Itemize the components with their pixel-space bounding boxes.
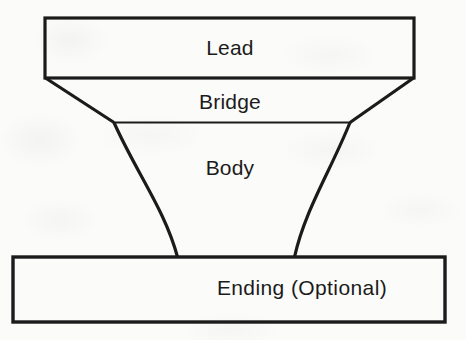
body-left-curve <box>114 123 178 258</box>
bridge-label: Bridge <box>199 90 261 113</box>
diagram-canvas: Lead Bridge Body Ending (Optional) <box>0 0 466 340</box>
lead-section: Lead <box>45 18 414 78</box>
body-section: Body <box>114 123 350 258</box>
bridge-left-diagonal <box>46 78 115 123</box>
bridge-section: Bridge <box>46 78 414 123</box>
body-label: Body <box>206 156 255 179</box>
story-structure-diagram: Lead Bridge Body Ending (Optional) <box>0 0 466 340</box>
ending-section: Ending (Optional) <box>13 257 445 322</box>
ending-label: Ending (Optional) <box>217 276 387 299</box>
lead-label: Lead <box>206 36 254 59</box>
body-right-curve <box>295 123 351 258</box>
bridge-right-diagonal <box>350 78 414 123</box>
